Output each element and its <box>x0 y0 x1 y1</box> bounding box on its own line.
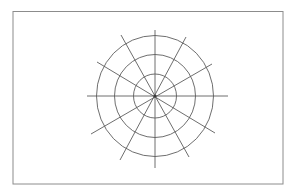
frame-border <box>13 12 283 185</box>
diagram-canvas <box>0 0 296 195</box>
center-point <box>153 94 156 97</box>
radial-spokes <box>87 30 228 168</box>
polar-grid-diagram <box>0 0 296 195</box>
